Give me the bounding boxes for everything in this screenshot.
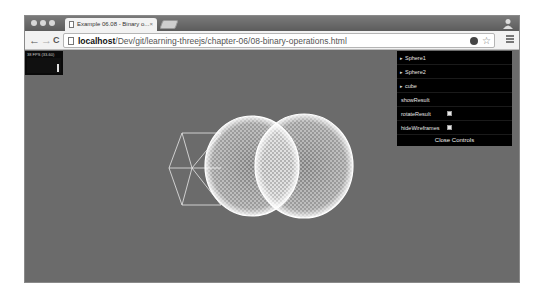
hide-wireframes-row: hideWireframes [397, 121, 512, 135]
tab-example-06-08[interactable]: Example 06.08 - Binary o... × [65, 18, 157, 31]
url-text: localhost/Dev/git/learning-threejs/chapt… [78, 34, 347, 48]
reload-button[interactable]: C [53, 34, 60, 47]
forward-button[interactable]: → [41, 34, 52, 47]
back-button[interactable]: ← [29, 34, 40, 47]
folder-label: cube [405, 79, 417, 93]
folder-cube[interactable]: ▸ cube [397, 79, 512, 93]
folder-arrow-icon: ▸ [400, 65, 403, 79]
sphere2-wireframe [255, 114, 353, 218]
new-tab-button[interactable] [159, 20, 178, 29]
dat-gui-panel: ▸ Sphere1 ▸ Sphere2 ▸ cube showResult ro… [397, 51, 512, 146]
folder-label: Sphere1 [405, 51, 426, 65]
show-result-label: showResult [401, 93, 429, 107]
close-window-button[interactable] [31, 20, 37, 26]
folder-sphere1[interactable]: ▸ Sphere1 [397, 51, 512, 65]
folder-sphere2[interactable]: ▸ Sphere2 [397, 65, 512, 79]
folder-arrow-icon: ▸ [400, 79, 403, 93]
rotate-result-label: rotateResult [401, 107, 431, 121]
hide-wireframes-label: hideWireframes [401, 121, 440, 135]
url-host: localhost [78, 36, 115, 46]
fps-bar [57, 64, 59, 72]
minimize-window-button[interactable] [40, 20, 46, 26]
show-result-button[interactable]: showResult [397, 93, 512, 107]
address-bar[interactable]: localhost/Dev/git/learning-threejs/chapt… [63, 33, 495, 48]
extension-icon[interactable] [470, 37, 478, 45]
tab-close-icon[interactable]: × [149, 18, 153, 31]
rotate-result-row: rotateResult [397, 107, 512, 121]
profile-icon[interactable] [502, 18, 514, 29]
menu-icon[interactable] [506, 35, 514, 43]
url-path: /Dev/git/learning-threejs/chapter-06/08-… [115, 36, 347, 46]
rotate-result-checkbox[interactable] [447, 111, 452, 116]
browser-window: Example 06.08 - Binary o... × ← → C loca… [24, 15, 520, 283]
page-icon [68, 37, 74, 45]
fps-graph [27, 58, 61, 73]
bookmark-star-icon[interactable]: ☆ [482, 34, 491, 48]
close-controls-button[interactable]: Close Controls [397, 135, 512, 146]
folder-arrow-icon: ▸ [400, 51, 403, 65]
webgl-canvas[interactable]: 38 FPS (33-60) ▸ Sphere1 ▸ Sphere2 ▸ cub… [25, 51, 519, 283]
page-icon [69, 21, 74, 28]
hide-wireframes-checkbox[interactable] [447, 125, 452, 130]
zoom-window-button[interactable] [49, 20, 55, 26]
fps-text: 38 FPS (33-60) [27, 52, 54, 57]
title-bar: Example 06.08 - Binary o... × [25, 16, 519, 31]
fps-stats-panel[interactable]: 38 FPS (33-60) [25, 51, 63, 75]
browser-toolbar: ← → C localhost/Dev/git/learning-threejs… [25, 31, 519, 50]
folder-label: Sphere2 [405, 65, 426, 79]
tab-title: Example 06.08 - Binary o... [77, 21, 149, 27]
